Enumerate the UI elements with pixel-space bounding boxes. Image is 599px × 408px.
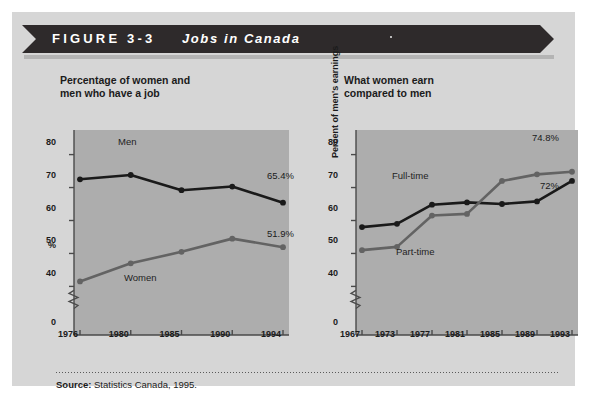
y-tick-label: 60 xyxy=(34,203,56,213)
x-tick-label: 1981 xyxy=(438,329,472,339)
figure-title: Jobs in Canada xyxy=(182,31,300,46)
x-tick-label: 1993 xyxy=(543,329,577,339)
x-tick-label: 1980 xyxy=(102,329,136,339)
banner-dot-mark xyxy=(390,36,392,38)
end-value-label: 51.9% xyxy=(267,228,294,239)
y-tick-label: 50 xyxy=(34,235,56,245)
right-chart-title: What women earn compared to men xyxy=(344,74,434,100)
source-text: Statistics Canada, 1995. xyxy=(94,379,197,390)
y-tick-label: 70 xyxy=(34,170,56,180)
series-label-part-time: Part-time xyxy=(396,246,435,257)
left-chart-plot xyxy=(74,130,289,335)
x-tick-label: 1989 xyxy=(508,329,542,339)
y-tick-label: 0 xyxy=(316,317,338,327)
left-chart-svg xyxy=(74,130,289,335)
source-prefix: Source: xyxy=(56,379,91,390)
left-chart-title: Percentage of women and men who have a j… xyxy=(60,74,190,100)
y-tick-label: 40 xyxy=(34,268,56,278)
y-tick-label: 0 xyxy=(34,317,56,327)
figure-banner: FIGURE 3-3 Jobs in Canada xyxy=(22,25,554,53)
y-tick-label: 60 xyxy=(316,203,338,213)
right-chart-plot xyxy=(356,130,578,335)
y-tick-label: 40 xyxy=(316,268,338,278)
x-tick-label: 1967 xyxy=(333,329,367,339)
figure-number-label: FIGURE 3-3 xyxy=(52,31,156,46)
source-divider xyxy=(56,372,559,373)
x-tick-label: 1985 xyxy=(153,329,187,339)
y-tick-label: 70 xyxy=(316,170,338,180)
x-tick-label: 1976 xyxy=(51,329,85,339)
series-label-full-time: Full-time xyxy=(392,170,428,181)
x-tick-label: 1990 xyxy=(203,329,237,339)
x-tick-label: 1973 xyxy=(368,329,402,339)
y-tick-label: 50 xyxy=(316,235,338,245)
x-tick-label: 1977 xyxy=(403,329,437,339)
series-label-women: Women xyxy=(124,272,157,283)
figure-panel: FIGURE 3-3 Jobs in Canada Percentage of … xyxy=(12,12,575,386)
x-tick-label: 1994 xyxy=(254,329,288,339)
source-note: Source: Statistics Canada, 1995. xyxy=(56,379,197,390)
y-tick-label: 80 xyxy=(316,137,338,147)
end-value-label: 72% xyxy=(540,180,559,191)
right-chart-y-axis-label: Percent of men's earnings xyxy=(330,8,340,158)
right-chart-svg xyxy=(356,130,578,335)
end-value-label: 74.8% xyxy=(532,132,559,143)
series-label-men: Men xyxy=(118,136,136,147)
banner-shadow xyxy=(24,55,554,59)
y-tick-label: 80 xyxy=(34,137,56,147)
end-value-label: 65.4% xyxy=(267,170,294,181)
x-tick-label: 1985 xyxy=(473,329,507,339)
